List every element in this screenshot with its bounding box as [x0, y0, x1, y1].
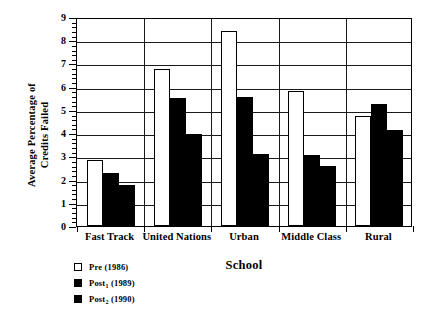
- x-axis-category-label: Fast Track: [85, 231, 134, 242]
- y-axis-minor-tick: [72, 139, 76, 140]
- bar: [371, 104, 387, 226]
- y-axis-tick-label: 1: [50, 199, 66, 209]
- y-axis-minor-tick: [72, 190, 76, 191]
- y-axis-minor-tick: [72, 213, 76, 214]
- y-axis-minor-tick: [72, 60, 76, 61]
- bar: [304, 155, 320, 226]
- y-axis-minor-tick: [72, 199, 76, 200]
- y-axis-minor-tick: [72, 176, 76, 177]
- y-axis-tick: [69, 18, 76, 19]
- y-axis-minor-tick: [72, 74, 76, 75]
- legend-swatch: [74, 263, 82, 271]
- y-axis-tick-label: 6: [50, 83, 66, 93]
- y-axis-minor-tick: [72, 162, 76, 163]
- gridline: [77, 42, 411, 43]
- y-axis-minor-tick: [72, 27, 76, 28]
- group-separator: [346, 19, 347, 226]
- y-axis-minor-tick: [72, 208, 76, 209]
- x-axis-category-label: United Nations: [142, 231, 211, 242]
- y-axis-minor-tick: [72, 153, 76, 154]
- bar: [119, 185, 135, 226]
- y-axis-tick: [69, 111, 76, 112]
- y-axis-minor-tick: [72, 83, 76, 84]
- x-axis-tick: [413, 226, 414, 232]
- bar: [320, 166, 336, 226]
- legend-swatch: [74, 295, 82, 303]
- y-axis-tick: [69, 157, 76, 158]
- bar: [103, 173, 119, 226]
- bar: [186, 134, 202, 226]
- y-axis-minor-tick: [72, 167, 76, 168]
- x-axis-category-label: Rural: [365, 231, 392, 242]
- y-axis-tick: [69, 204, 76, 205]
- legend-item: Pre (1986): [74, 259, 224, 275]
- y-axis-minor-tick: [72, 23, 76, 24]
- group-separator: [279, 19, 280, 226]
- y-axis-minor-tick: [72, 194, 76, 195]
- y-axis-minor-tick: [72, 37, 76, 38]
- y-axis-tick-label: 0: [50, 222, 66, 232]
- y-axis-minor-tick: [72, 171, 76, 172]
- y-axis-tick: [69, 227, 76, 228]
- gridline: [77, 89, 411, 90]
- y-axis-tick: [69, 64, 76, 65]
- y-axis-minor-tick: [72, 185, 76, 186]
- y-axis-minor-tick: [72, 120, 76, 121]
- x-axis-category-label: Middle Class: [281, 231, 341, 242]
- legend-item: Post2 (1990): [74, 291, 224, 307]
- y-axis-minor-tick: [72, 148, 76, 149]
- y-axis-minor-tick: [72, 55, 76, 56]
- y-axis-minor-tick: [72, 92, 76, 93]
- y-axis-tick-label: 8: [50, 36, 66, 46]
- plot-area: [76, 18, 412, 227]
- y-axis-tick: [69, 134, 76, 135]
- x-axis-tick: [346, 226, 347, 232]
- group-separator: [144, 19, 145, 226]
- x-axis-category-label: Urban: [229, 231, 259, 242]
- gridline: [77, 65, 411, 66]
- y-axis-tick-label: 3: [50, 152, 66, 162]
- y-axis-tick-label: 5: [50, 106, 66, 116]
- y-axis-tick: [69, 181, 76, 182]
- y-axis-minor-tick: [72, 129, 76, 130]
- bar: [288, 91, 304, 226]
- y-axis-minor-tick: [72, 116, 76, 117]
- bar: [355, 116, 371, 226]
- y-axis-minor-tick: [72, 125, 76, 126]
- y-axis-minor-tick: [72, 143, 76, 144]
- y-axis-minor-tick: [72, 46, 76, 47]
- legend-item: Post1 (1989): [74, 275, 224, 291]
- y-axis-minor-tick: [72, 32, 76, 33]
- y-axis-minor-tick: [72, 102, 76, 103]
- group-separator: [211, 19, 212, 226]
- legend: Pre (1986)Post1 (1989)Post2 (1990): [74, 259, 224, 307]
- y-axis-tick-label: 4: [50, 129, 66, 139]
- y-axis-tick-label: 2: [50, 176, 66, 186]
- bar: [237, 97, 253, 226]
- y-axis-minor-tick: [72, 106, 76, 107]
- bar: [170, 98, 186, 226]
- y-axis-minor-tick: [72, 78, 76, 79]
- y-axis-tick: [69, 88, 76, 89]
- bar-chart-figure: Average Percentage of Credits Failed Sch…: [0, 0, 428, 321]
- y-axis-minor-tick: [72, 222, 76, 223]
- bar: [87, 160, 103, 226]
- x-axis-tick: [279, 226, 280, 232]
- bar: [253, 154, 269, 226]
- x-axis-tick: [211, 226, 212, 232]
- legend-label: Pre (1986): [89, 259, 128, 275]
- legend-label: Post1 (1989): [89, 275, 135, 292]
- y-axis-minor-tick: [72, 51, 76, 52]
- legend-swatch: [74, 279, 82, 287]
- x-axis-title: School: [225, 258, 262, 273]
- y-axis-tick: [69, 41, 76, 42]
- bar: [221, 31, 237, 226]
- bar: [387, 130, 403, 226]
- y-axis-minor-tick: [72, 218, 76, 219]
- x-axis-tick: [77, 226, 78, 232]
- y-axis-minor-tick: [72, 97, 76, 98]
- y-axis-tick-label: 9: [50, 13, 66, 23]
- bar: [154, 69, 170, 226]
- y-axis-title: Average Percentage of Credits Failed: [25, 35, 51, 235]
- legend-label: Post2 (1990): [89, 291, 135, 308]
